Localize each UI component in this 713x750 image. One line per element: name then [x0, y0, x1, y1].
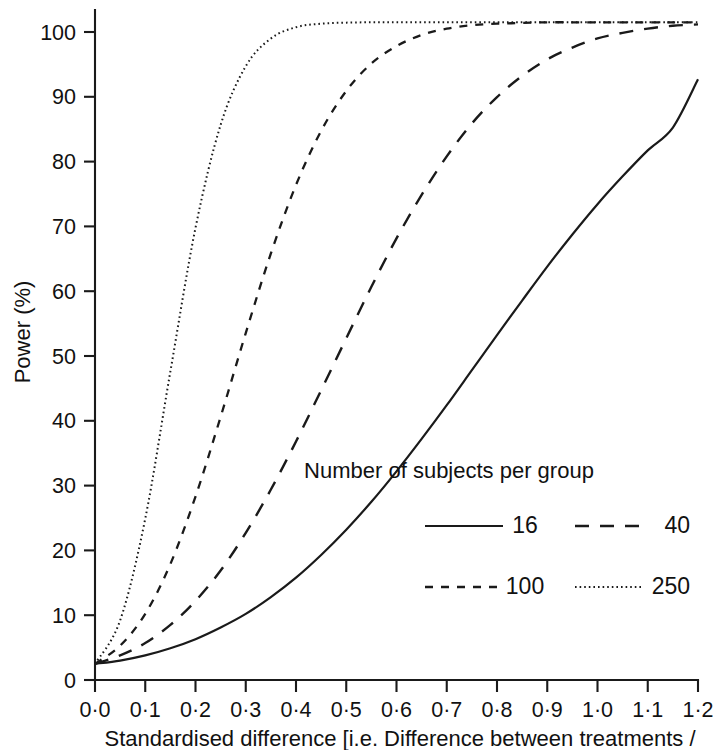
- y-tick-label: 100: [40, 21, 76, 45]
- curve-n-16: [95, 79, 698, 663]
- curve-n-40: [95, 24, 698, 663]
- legend-label-16: 16: [512, 512, 538, 538]
- axes-group: [95, 10, 698, 680]
- x-tick-label: 0·9: [532, 698, 563, 722]
- y-axis-ticks: 0102030405060708090100: [40, 21, 95, 693]
- x-tick-label: 0·2: [180, 698, 211, 722]
- x-tick-label: 1·0: [582, 698, 613, 722]
- x-tick-label: 1·2: [682, 698, 713, 722]
- legend-title: Number of subjects per group: [304, 458, 594, 483]
- x-axis-ticks: 0·00·10·20·30·40·50·60·70·80·91·01·11·2: [79, 680, 713, 722]
- x-tick-label: 0·0: [79, 698, 110, 722]
- y-tick-label: 10: [52, 604, 76, 628]
- x-tick-label: 0·1: [130, 698, 161, 722]
- y-axis-label-text: Power (%): [10, 281, 35, 384]
- y-tick-label: 70: [52, 215, 76, 239]
- y-tick-label: 50: [52, 345, 76, 369]
- x-tick-label: 0·7: [431, 698, 462, 722]
- curve-n-250: [95, 22, 698, 664]
- y-axis-label: Power (%): [10, 281, 35, 384]
- curve-n-100: [95, 22, 698, 664]
- x-tick-label: 1·1: [632, 698, 663, 722]
- x-tick-label: 0·8: [481, 698, 512, 722]
- x-tick-label: 0·5: [331, 698, 362, 722]
- y-tick-label: 90: [52, 85, 76, 109]
- y-tick-label: 60: [52, 280, 76, 304]
- y-tick-label: 80: [52, 150, 76, 174]
- power-curve-figure: 0102030405060708090100 0·00·10·20·30·40·…: [0, 0, 713, 750]
- x-tick-label: 0·3: [230, 698, 261, 722]
- y-tick-label: 20: [52, 539, 76, 563]
- legend-label-250: 250: [652, 573, 690, 599]
- curves-group: [95, 22, 698, 664]
- legend-label-40: 40: [664, 512, 690, 538]
- x-tick-label: 0·6: [381, 698, 412, 722]
- x-tick-label: 0·4: [280, 698, 311, 722]
- x-axis-caption: Standardised difference [i.e. Difference…: [104, 726, 696, 750]
- caption-line-1: Standardised difference [i.e. Difference…: [104, 726, 696, 750]
- legend: Number of subjects per group 1640100250: [304, 458, 690, 599]
- y-tick-label: 40: [52, 409, 76, 433]
- y-tick-label: 30: [52, 474, 76, 498]
- legend-label-100: 100: [506, 573, 544, 599]
- chart-canvas: 0102030405060708090100 0·00·10·20·30·40·…: [0, 0, 713, 750]
- y-tick-label: 0: [64, 669, 76, 693]
